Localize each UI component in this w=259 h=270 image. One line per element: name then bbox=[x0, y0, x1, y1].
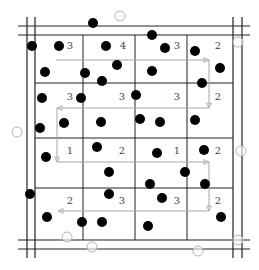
cell-count-label: 2 bbox=[67, 195, 73, 206]
filled-point-marker bbox=[215, 63, 225, 73]
filled-point-marker bbox=[101, 41, 111, 51]
filled-point-marker bbox=[143, 221, 153, 231]
filled-point-marker bbox=[197, 78, 207, 88]
cell-count-label: 3 bbox=[67, 91, 73, 102]
open-point-marker bbox=[12, 127, 22, 137]
cell-count-label: 3 bbox=[119, 91, 125, 102]
cell-count-label: 3 bbox=[174, 91, 180, 102]
cell-count-label: 3 bbox=[174, 195, 180, 206]
filled-point-marker bbox=[76, 93, 86, 103]
filled-point-marker bbox=[27, 41, 37, 51]
cell-count-label: 2 bbox=[215, 91, 221, 102]
cell-count-label: 1 bbox=[67, 145, 73, 156]
filled-point-marker bbox=[155, 117, 165, 127]
filled-point-marker bbox=[41, 152, 51, 162]
filled-point-marker bbox=[104, 189, 114, 199]
cell-count-label: 1 bbox=[174, 145, 180, 156]
cell-count-label: 2 bbox=[215, 40, 221, 51]
filled-point-marker bbox=[190, 46, 200, 56]
filled-point-marker bbox=[25, 189, 35, 199]
filled-point-marker bbox=[152, 148, 162, 158]
filled-point-marker bbox=[135, 114, 145, 124]
cell-count-label: 3 bbox=[67, 40, 73, 51]
filled-point-marker bbox=[199, 145, 209, 155]
cell-count-label: 3 bbox=[174, 40, 180, 51]
filled-point-marker bbox=[92, 142, 102, 152]
filled-point-marker bbox=[54, 41, 64, 51]
filled-point-marker bbox=[190, 115, 200, 125]
filled-point-marker bbox=[216, 212, 226, 222]
filled-point-marker bbox=[80, 68, 90, 78]
filled-point-marker bbox=[97, 76, 107, 86]
open-point-marker bbox=[236, 146, 246, 156]
filled-point-marker bbox=[200, 179, 210, 189]
filled-point-marker bbox=[157, 193, 167, 203]
filled-point-marker bbox=[112, 60, 122, 70]
filled-point-marker bbox=[35, 123, 45, 133]
filled-point-marker bbox=[160, 43, 170, 53]
open-point-marker bbox=[193, 246, 203, 256]
filled-point-marker bbox=[104, 167, 114, 177]
filled-point-marker bbox=[42, 212, 52, 222]
filled-point-marker bbox=[88, 18, 98, 28]
cell-count-label: 3 bbox=[119, 195, 125, 206]
grid-scan-diagram: 3432333212122332 bbox=[0, 0, 259, 270]
filled-point-marker bbox=[145, 179, 155, 189]
filled-point-marker bbox=[96, 117, 106, 127]
open-point-marker bbox=[233, 37, 243, 47]
open-point-marker bbox=[115, 11, 125, 21]
filled-point-marker bbox=[131, 90, 141, 100]
filled-point-marker bbox=[37, 93, 47, 103]
open-point-marker bbox=[87, 242, 97, 252]
filled-point-marker bbox=[77, 217, 87, 227]
filled-point-marker bbox=[40, 67, 50, 77]
cell-count-label: 2 bbox=[215, 195, 221, 206]
open-point-marker bbox=[233, 235, 243, 245]
cell-grid bbox=[35, 35, 233, 240]
filled-point-marker bbox=[147, 66, 157, 76]
filled-point-marker bbox=[59, 118, 69, 128]
cell-count-label: 4 bbox=[120, 40, 126, 51]
filled-point-marker bbox=[97, 217, 107, 227]
cell-count-label: 2 bbox=[215, 145, 221, 156]
open-point-marker bbox=[62, 232, 72, 242]
filled-point-marker bbox=[147, 30, 157, 40]
scan-path-arrows bbox=[55, 58, 212, 214]
cell-count-label: 2 bbox=[119, 145, 125, 156]
filled-point-marker bbox=[180, 167, 190, 177]
